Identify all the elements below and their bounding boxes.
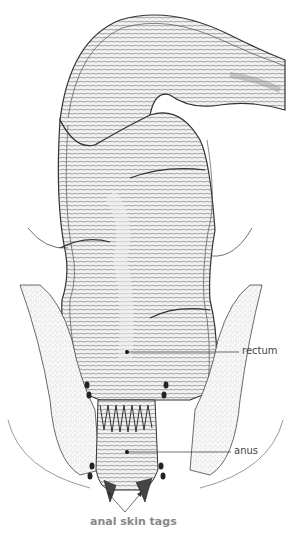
label-rectum: rectum bbox=[242, 345, 278, 356]
rectum-body bbox=[58, 113, 216, 400]
arrowhead-right-icon bbox=[137, 491, 142, 497]
peritoneal-line-right bbox=[212, 228, 252, 256]
label-anal-skin-tags: anal skin tags bbox=[90, 515, 177, 528]
anatomy-illustration bbox=[0, 0, 291, 538]
skin-tags-arrow-left bbox=[108, 493, 125, 512]
label-anus: anus bbox=[234, 445, 258, 456]
skin-tags-arrow-right bbox=[125, 493, 141, 512]
